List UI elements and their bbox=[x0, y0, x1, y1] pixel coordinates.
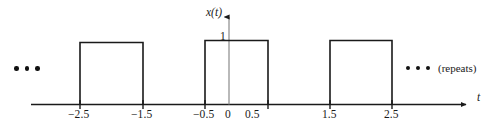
y-axis-label: x(t) bbox=[206, 7, 222, 19]
dot bbox=[426, 66, 430, 70]
x-axis-label: t bbox=[477, 92, 480, 104]
tick-label-1-5: 1.5 bbox=[322, 109, 337, 121]
tick-label-neg-2-5: −2.5 bbox=[68, 109, 89, 121]
dots-right-icon bbox=[406, 66, 430, 70]
pulse-rect-2 bbox=[205, 41, 268, 105]
pulse-rect-1 bbox=[80, 43, 143, 105]
tick-label-neg-0-5: −0.5 bbox=[193, 109, 214, 121]
tick-label-neg-1-5: −1.5 bbox=[131, 109, 152, 121]
repeats-annotation: (repeats) bbox=[438, 63, 476, 74]
dot bbox=[406, 66, 410, 70]
dot bbox=[14, 66, 19, 71]
dot bbox=[416, 66, 420, 70]
tick-label-0: 0 bbox=[225, 109, 231, 121]
dot bbox=[25, 66, 30, 71]
tick-label-2-5: 2.5 bbox=[384, 109, 399, 121]
amplitude-label: 1 bbox=[220, 31, 226, 43]
tick-label-0-5: 0.5 bbox=[245, 109, 260, 121]
dots-left-icon bbox=[14, 66, 40, 71]
pulse-rect-3 bbox=[330, 41, 392, 105]
dot bbox=[35, 66, 40, 71]
figure-container: x(t) t 1 (repeats) −2.5 −1.5 −0.5 0 0.5 … bbox=[0, 0, 493, 134]
